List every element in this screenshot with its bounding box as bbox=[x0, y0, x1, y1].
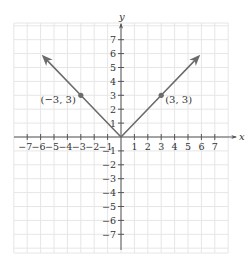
y-tick-label: 2 bbox=[110, 104, 116, 115]
y-tick-label: 3 bbox=[110, 90, 116, 101]
point-marker bbox=[78, 93, 83, 98]
x-tick-label: −3 bbox=[72, 141, 86, 152]
y-tick-label: −1 bbox=[102, 145, 116, 156]
y-tick-label: −6 bbox=[102, 215, 116, 226]
x-tick-label: 5 bbox=[185, 141, 191, 152]
x-tick-label: 4 bbox=[172, 141, 178, 152]
y-tick-label: 5 bbox=[110, 62, 116, 73]
axes bbox=[14, 24, 236, 250]
y-tick-label: 7 bbox=[110, 34, 116, 45]
absolute-value-graph: −7−6−5−4−3−2−11234567−7−6−5−4−3−2−112345… bbox=[0, 0, 252, 263]
point-annotations: (−3, 3)(3, 3) bbox=[41, 93, 193, 106]
point-label: (−3, 3) bbox=[41, 94, 76, 105]
y-tick-label: −7 bbox=[102, 229, 116, 240]
x-tick-label: −7 bbox=[18, 141, 32, 152]
y-tick-label: 6 bbox=[110, 48, 116, 59]
x-tick-label: −2 bbox=[85, 141, 99, 152]
x-tick-label: 2 bbox=[145, 141, 151, 152]
x-tick-label: 6 bbox=[198, 141, 204, 152]
x-tick-label: −6 bbox=[32, 141, 46, 152]
point-label: (3, 3) bbox=[165, 94, 192, 105]
x-tick-label: 7 bbox=[212, 141, 218, 152]
y-tick-label: 4 bbox=[110, 76, 116, 87]
x-tick-label: 1 bbox=[131, 141, 137, 152]
x-axis-label: x bbox=[239, 131, 245, 142]
x-tick-label: −4 bbox=[58, 141, 72, 152]
y-tick-label: −3 bbox=[102, 173, 116, 184]
y-tick-label: −5 bbox=[102, 201, 116, 212]
x-tick-label: 3 bbox=[158, 141, 164, 152]
y-tick-label: −2 bbox=[102, 159, 116, 170]
y-tick-label: −4 bbox=[102, 187, 116, 198]
point-marker bbox=[159, 93, 164, 98]
y-axis-label: y bbox=[118, 11, 125, 22]
x-tick-label: −5 bbox=[45, 141, 59, 152]
